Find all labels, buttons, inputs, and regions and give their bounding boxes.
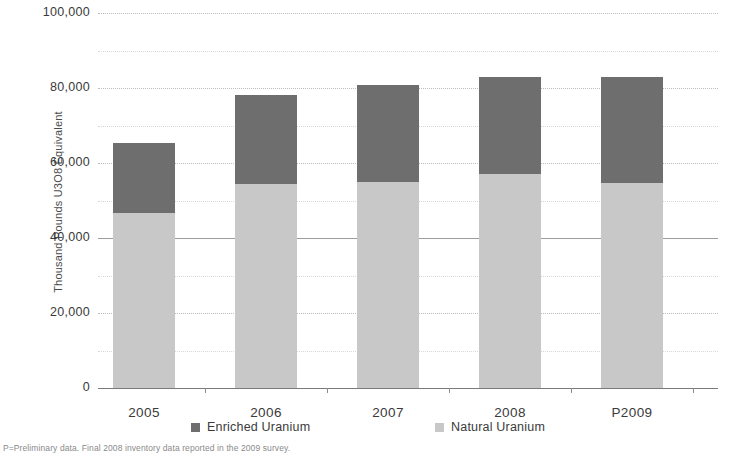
- legend-swatch-natural-icon: [435, 423, 444, 432]
- gridline-90000: [98, 51, 718, 52]
- legend-label-enriched: Enriched Uranium: [207, 420, 310, 434]
- bar-segment-natural-p2009: [601, 183, 663, 388]
- y-tick-label-80000: 80,000: [0, 80, 90, 94]
- x-tick-5: [693, 388, 694, 393]
- plot-area: 2005 2006 2007 2008 P2009: [98, 13, 718, 388]
- x-axis-label-2007: 2007: [338, 405, 438, 420]
- chart-legend: Enriched Uranium Natural Uranium: [0, 420, 735, 440]
- chart-footnote: P=Preliminary data. Final 2008 inventory…: [3, 443, 290, 453]
- legend-label-natural: Natural Uranium: [451, 420, 545, 434]
- gridline-100000: [98, 13, 718, 14]
- bar-segment-enriched-2008: [479, 77, 541, 174]
- y-tick-label-100000: 100,000: [0, 5, 90, 19]
- bar-segment-natural-2005: [113, 213, 175, 388]
- y-tick-label-20000: 20,000: [0, 305, 90, 319]
- bar-segment-enriched-2005: [113, 143, 175, 213]
- x-axis-label-2008: 2008: [460, 405, 560, 420]
- stacked-bar-chart: Thousand Pounds U3O8 Equivalent 100,000 …: [0, 0, 735, 457]
- y-tick-label-40000: 40,000: [0, 230, 90, 244]
- legend-item-natural[interactable]: Natural Uranium: [435, 420, 545, 434]
- bar-segment-enriched-2007: [357, 85, 419, 182]
- x-axis-label-p2009: P2009: [582, 405, 682, 420]
- bar-segment-natural-2006: [235, 184, 297, 388]
- x-tick-1: [205, 388, 206, 393]
- legend-swatch-enriched-icon: [191, 423, 200, 432]
- bar-segment-enriched-p2009: [601, 77, 663, 183]
- x-axis-line: [98, 388, 718, 389]
- x-tick-4: [571, 388, 572, 393]
- x-axis-label-2005: 2005: [94, 405, 194, 420]
- y-tick-label-0: 0: [0, 380, 90, 394]
- x-tick-2: [327, 388, 328, 393]
- legend-item-enriched[interactable]: Enriched Uranium: [191, 420, 310, 434]
- bar-segment-natural-2007: [357, 182, 419, 388]
- y-tick-label-60000: 60,000: [0, 155, 90, 169]
- bar-segment-natural-2008: [479, 174, 541, 388]
- x-axis-label-2006: 2006: [216, 405, 316, 420]
- bar-segment-enriched-2006: [235, 95, 297, 184]
- x-tick-3: [449, 388, 450, 393]
